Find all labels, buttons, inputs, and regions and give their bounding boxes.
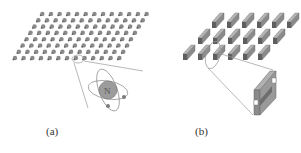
h-bar-inset-icon xyxy=(254,71,276,115)
atom-inset-icon: N xyxy=(87,66,130,114)
nucleus-label: N xyxy=(104,86,111,96)
panel-a-caption: (a) xyxy=(46,125,58,137)
panel-b-caption: (b) xyxy=(195,125,208,137)
atom-lattice xyxy=(13,12,149,61)
bar-lattice xyxy=(183,13,299,60)
